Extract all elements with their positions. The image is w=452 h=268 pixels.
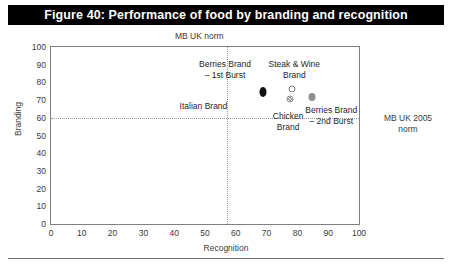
- label-steak-line2: Brand: [269, 70, 321, 81]
- figure-title-banner: Figure 40: Performance of food by brandi…: [8, 5, 444, 25]
- mb-uk-2005-norm-line2: norm: [368, 124, 448, 135]
- label-italian-brand: Italian Brand: [180, 101, 228, 112]
- plot-area: 100 90 80 70 60 50 40 30 20 10 0 0 10 20…: [50, 46, 360, 225]
- y-tick-40: 40: [37, 148, 46, 158]
- label-chicken-brand: Chicken Brand: [273, 111, 304, 133]
- label-berries-1st-line2: – 1st Burst: [199, 70, 251, 81]
- x-tick-70: 70: [262, 228, 271, 238]
- label-chicken-line2: Brand: [273, 122, 304, 133]
- y-tick-70: 70: [37, 95, 46, 105]
- x-tick-30: 30: [139, 228, 148, 238]
- data-point-berries-brand-1st-burst[interactable]: [259, 87, 266, 97]
- label-steak-and-wine-brand: Steak & Wine Brand: [269, 59, 321, 81]
- y-tick-10: 10: [37, 201, 46, 211]
- figure-container: Figure 40: Performance of food by brandi…: [0, 0, 452, 268]
- x-tick-80: 80: [293, 228, 302, 238]
- y-tick-100: 100: [32, 42, 46, 52]
- label-berries-brand-1st-burst: Berries Brand – 1st Burst: [199, 59, 251, 81]
- label-berries-1st-line1: Berries Brand: [199, 59, 251, 70]
- x-axis-title: Recognition: [0, 243, 452, 253]
- y-tick-30: 30: [37, 166, 46, 176]
- x-tick-60: 60: [231, 228, 240, 238]
- label-berries-2nd-line2: – 2nd Burst: [305, 116, 357, 127]
- mb-uk-norm-label: MB UK norm: [175, 31, 224, 41]
- y-tick-60: 60: [37, 113, 46, 123]
- page-title: Figure 40: Performance of food by brandi…: [44, 8, 407, 22]
- x-tick-40: 40: [169, 228, 178, 238]
- y-tick-90: 90: [37, 60, 46, 70]
- x-tick-50: 50: [200, 228, 209, 238]
- label-berries-2nd-line1: Berries Brand: [305, 105, 357, 116]
- mb-uk-2005-norm-label: MB UK 2005 norm: [368, 113, 448, 135]
- label-berries-brand-2nd-burst: Berries Brand – 2nd Burst: [305, 105, 357, 127]
- mb-uk-2005-norm-line1: MB UK 2005: [368, 113, 448, 124]
- y-axis-title: Branding: [13, 102, 23, 136]
- y-tick-20: 20: [37, 184, 46, 194]
- bottom-divider: [8, 258, 444, 259]
- label-chicken-line1: Chicken: [273, 111, 304, 122]
- x-tick-90: 90: [323, 228, 332, 238]
- x-tick-100: 100: [352, 228, 366, 238]
- y-tick-0: 0: [41, 219, 46, 229]
- y-tick-50: 50: [37, 131, 46, 141]
- x-tick-0: 0: [49, 228, 54, 238]
- label-italian-line1: Italian Brand: [180, 101, 228, 112]
- data-point-berries-brand-2nd-burst[interactable]: [309, 93, 316, 101]
- data-point-chicken-brand[interactable]: [287, 95, 294, 102]
- x-tick-20: 20: [108, 228, 117, 238]
- x-tick-10: 10: [77, 228, 86, 238]
- y-tick-80: 80: [37, 77, 46, 87]
- data-point-steak-and-wine-brand[interactable]: [289, 86, 296, 93]
- label-steak-line1: Steak & Wine: [269, 59, 321, 70]
